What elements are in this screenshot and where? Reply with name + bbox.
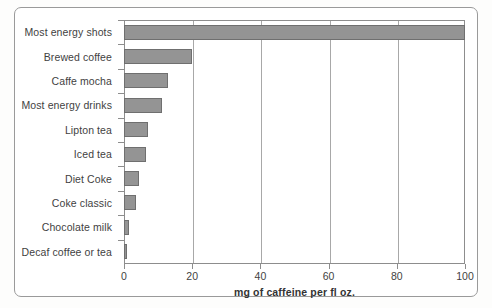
category-label: Lipton tea — [0, 118, 118, 142]
x-axis-title: mg of caffeine per fl oz. — [124, 286, 465, 298]
bar — [124, 49, 192, 64]
bar — [124, 147, 146, 162]
y-axis-tick — [118, 191, 124, 192]
bar-row — [124, 215, 129, 239]
bar — [124, 73, 168, 88]
bar — [124, 25, 465, 40]
bar — [124, 220, 129, 235]
y-axis-tick — [118, 44, 124, 45]
x-axis-tick-label: 60 — [323, 270, 335, 282]
chart-figure: Most energy shotsBrewed coffeeCaffe moch… — [0, 0, 492, 308]
y-axis-tick — [118, 240, 124, 241]
x-axis-tick-label: 0 — [121, 270, 127, 282]
x-axis-tick — [124, 264, 125, 269]
bar-row — [124, 69, 168, 93]
category-label: Decaf coffee or tea — [0, 240, 118, 264]
x-axis-tick — [465, 264, 466, 269]
bar-row — [124, 44, 192, 68]
category-label: Most energy shots — [0, 20, 118, 44]
bar-row — [124, 20, 465, 44]
bar-row — [124, 240, 127, 264]
category-axis-labels: Most energy shotsBrewed coffeeCaffe moch… — [0, 20, 118, 264]
y-axis-tick — [118, 118, 124, 119]
category-label: Chocolate milk — [0, 215, 118, 239]
bar — [124, 244, 127, 259]
bar-row — [124, 142, 146, 166]
x-axis-tick-label: 20 — [186, 270, 198, 282]
x-axis-tick — [260, 264, 261, 269]
bar-row — [124, 93, 162, 117]
bar — [124, 171, 139, 186]
x-axis-tick — [397, 264, 398, 269]
y-axis-tick — [118, 93, 124, 94]
category-label: Brewed coffee — [0, 44, 118, 68]
bars-layer — [124, 20, 465, 264]
bar — [124, 122, 148, 137]
bar-row — [124, 166, 139, 190]
bar-row — [124, 191, 136, 215]
category-label: Coke classic — [0, 191, 118, 215]
category-label: Iced tea — [0, 142, 118, 166]
y-axis-tick — [118, 215, 124, 216]
x-axis-tick — [192, 264, 193, 269]
bar-row — [124, 118, 148, 142]
category-label: Diet Coke — [0, 166, 118, 190]
x-axis-tick — [329, 264, 330, 269]
category-label: Caffe mocha — [0, 69, 118, 93]
y-axis-tick — [118, 166, 124, 167]
x-axis-tick-label: 100 — [456, 270, 474, 282]
x-axis-tick-label: 80 — [391, 270, 403, 282]
bar — [124, 98, 162, 113]
category-label: Most energy drinks — [0, 93, 118, 117]
x-axis-tick-label: 40 — [255, 270, 267, 282]
y-axis-tick — [118, 142, 124, 143]
y-axis-tick — [118, 69, 124, 70]
bar — [124, 195, 136, 210]
y-axis-tick — [118, 20, 124, 21]
